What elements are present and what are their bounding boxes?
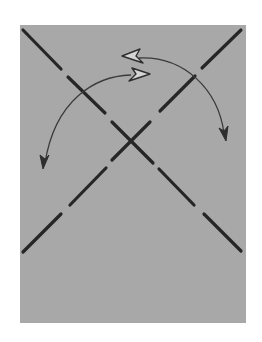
crossing-diagram — [0, 0, 262, 342]
